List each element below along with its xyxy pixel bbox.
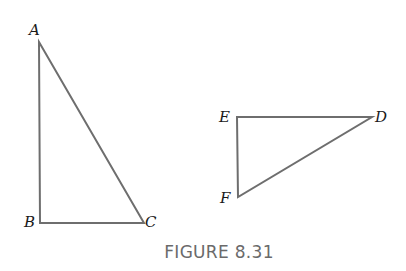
- vertex-label-f: F: [219, 189, 231, 207]
- triangle-abc: A B C: [23, 21, 157, 231]
- vertex-label-a: A: [27, 21, 40, 39]
- figure-canvas: A B C E D F FIGURE 8.31: [0, 0, 406, 271]
- triangle-abc-shape: [39, 42, 144, 223]
- vertex-label-e: E: [218, 108, 230, 126]
- vertex-label-c: C: [145, 213, 157, 231]
- triangle-edf: E D F: [218, 108, 387, 207]
- triangle-edf-shape: [237, 117, 372, 197]
- figure-caption: FIGURE 8.31: [164, 242, 274, 262]
- vertex-label-d: D: [374, 108, 387, 126]
- vertex-label-b: B: [23, 213, 35, 231]
